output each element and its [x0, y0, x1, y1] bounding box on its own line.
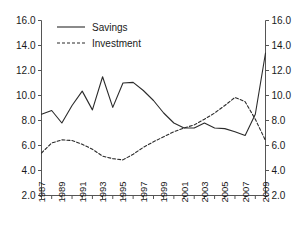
- x-axis-tick-label: 1989: [56, 181, 67, 202]
- x-axis-tick-label: 1995: [117, 181, 128, 202]
- data-series-group: [42, 53, 266, 160]
- y-axis-right-tick-label: 14.0: [272, 40, 292, 51]
- legend-label-savings: Savings: [92, 22, 128, 33]
- y-axis-left-tick-label: 4.0: [22, 165, 36, 176]
- series-line-investment: [42, 97, 266, 160]
- legend-label-investment: Investment: [92, 38, 141, 49]
- y-axis-left-tick-label: 16.0: [16, 15, 36, 26]
- x-axis-tick-label: 1997: [138, 181, 149, 202]
- y-axis-right-tick-label: 16.0: [272, 15, 292, 26]
- x-axis-tick-label: 1999: [158, 181, 169, 202]
- x-axis: 1987198919911993199519971999200120032005…: [36, 181, 271, 202]
- chart-canvas: 2.04.06.08.010.012.014.016.0 2.04.06.08.…: [0, 0, 296, 235]
- y-axis-left-tick-label: 8.0: [22, 115, 36, 126]
- y-axis-left-tick-label: 10.0: [16, 90, 36, 101]
- x-axis-tick-label: 2001: [179, 181, 190, 202]
- x-axis-tick-label: 2005: [219, 181, 230, 202]
- y-axis-right-tick-label: 8.0: [272, 115, 286, 126]
- x-axis-tick-label: 2003: [199, 181, 210, 202]
- y-axis-left: 2.04.06.08.010.012.014.016.0: [16, 15, 41, 201]
- y-axis-right: 2.04.06.08.010.012.014.016.0: [266, 15, 292, 201]
- y-axis-left-tick-label: 6.0: [22, 140, 36, 151]
- y-axis-left-tick-label: 14.0: [16, 40, 36, 51]
- y-axis-right-tick-label: 12.0: [272, 65, 292, 76]
- savings-investment-chart: 2.04.06.08.010.012.014.016.0 2.04.06.08.…: [0, 0, 296, 235]
- x-axis-tick-label: 1991: [77, 181, 88, 202]
- series-line-savings: [42, 53, 266, 136]
- x-axis-tick-label: 1993: [97, 181, 108, 202]
- y-axis-right-tick-label: 2.0: [272, 190, 286, 201]
- y-axis-left-tick-label: 12.0: [16, 65, 36, 76]
- y-axis-right-tick-label: 10.0: [272, 90, 292, 101]
- x-axis-tick-label: 2007: [240, 181, 251, 202]
- x-axis-tick-label: 2009: [260, 181, 271, 202]
- chart-legend: SavingsInvestment: [57, 22, 141, 49]
- y-axis-left-tick-label: 2.0: [22, 190, 36, 201]
- y-axis-right-tick-label: 4.0: [272, 165, 286, 176]
- y-axis-right-tick-label: 6.0: [272, 140, 286, 151]
- x-axis-tick-label: 1987: [36, 181, 47, 202]
